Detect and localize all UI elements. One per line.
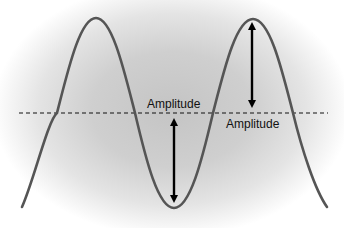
amplitude-label-lower: Amplitude bbox=[226, 117, 279, 131]
amplitude-label-upper: Amplitude bbox=[147, 97, 200, 111]
wave-figure bbox=[0, 0, 344, 228]
amplitude-diagram: Amplitude Amplitude bbox=[0, 0, 344, 228]
